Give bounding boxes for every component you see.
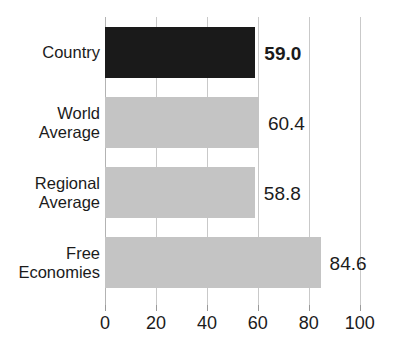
bar-country bbox=[105, 27, 255, 78]
tick-label-80: 80 bbox=[299, 313, 319, 334]
x-axis: 020406080100 bbox=[105, 305, 370, 345]
tick-mark-20 bbox=[156, 305, 157, 311]
category-label-line2: Economies bbox=[0, 263, 100, 282]
tick-label-20: 20 bbox=[146, 313, 166, 334]
tick-mark-40 bbox=[207, 305, 208, 311]
tick-label-0: 0 bbox=[100, 313, 110, 334]
bar-free-economies bbox=[105, 237, 321, 288]
category-label-line2: Average bbox=[0, 193, 100, 212]
tick-mark-60 bbox=[258, 305, 259, 311]
bar-world-average bbox=[105, 97, 259, 148]
tick-label-40: 40 bbox=[197, 313, 217, 334]
tick-mark-80 bbox=[309, 305, 310, 311]
bar-regional-average bbox=[105, 167, 255, 218]
value-label-world: 60.4 bbox=[268, 114, 305, 133]
category-label-line1: Regional bbox=[0, 174, 100, 193]
tick-mark-100 bbox=[360, 305, 361, 311]
tick-label-100: 100 bbox=[345, 313, 375, 334]
category-label-world: WorldAverage bbox=[0, 104, 100, 142]
category-label-free: FreeEconomies bbox=[0, 244, 100, 282]
tick-mark-0 bbox=[105, 305, 106, 311]
category-label-line1: Country bbox=[0, 43, 100, 62]
value-label-regional: 58.8 bbox=[264, 184, 301, 203]
category-label-line2: Average bbox=[0, 123, 100, 142]
category-label-regional: RegionalAverage bbox=[0, 174, 100, 212]
category-label-line1: World bbox=[0, 104, 100, 123]
category-label-line1: Free bbox=[0, 244, 100, 263]
category-label-country: Country bbox=[0, 43, 100, 62]
chart-title bbox=[0, 0, 395, 7]
tick-label-60: 60 bbox=[248, 313, 268, 334]
value-label-country: 59.0 bbox=[264, 44, 301, 63]
value-label-free: 84.6 bbox=[330, 254, 367, 273]
category-label-column: CountryWorldAverageRegionalAverageFreeEc… bbox=[0, 17, 100, 305]
bar-chart: CountryWorldAverageRegionalAverageFreeEc… bbox=[0, 0, 395, 356]
